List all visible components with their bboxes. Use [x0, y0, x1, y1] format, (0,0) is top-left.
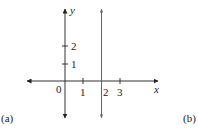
coordinate-plane: y x 0 1 2 3 1 2 (a) (b) [0, 0, 198, 131]
y-axis-label: y [69, 4, 75, 16]
x-tick-label-1: 1 [80, 86, 86, 98]
x-tick-label-3: 3 [117, 86, 123, 98]
panel-label-a: (a) [1, 112, 14, 125]
y-tick-label-2: 2 [71, 40, 77, 52]
x-tick-label-2: 2 [103, 86, 109, 98]
y-tick-label-1: 1 [71, 58, 77, 70]
origin-label: 0 [56, 83, 62, 95]
panel-label-b: (b) [183, 112, 196, 125]
x-axis-label: x [153, 83, 159, 95]
